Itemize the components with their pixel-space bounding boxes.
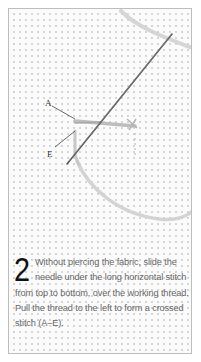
instruction-caption: 2 Without piercing the fabric, slide the… bbox=[9, 9, 192, 354]
step-number: 2 bbox=[14, 256, 30, 283]
instruction-panel: A E 2 Without piercing the fabric, slide… bbox=[8, 8, 192, 354]
step-text: Without piercing the fabric, slide the n… bbox=[15, 257, 189, 328]
